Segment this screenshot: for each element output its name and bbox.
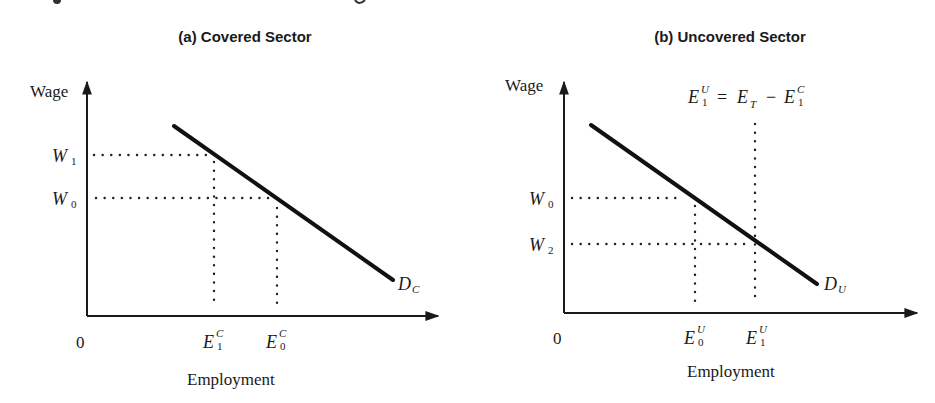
svg-text:U: U bbox=[697, 323, 706, 335]
svg-text:W: W bbox=[52, 146, 69, 166]
svg-text:E: E bbox=[683, 328, 695, 348]
svg-text:0: 0 bbox=[71, 198, 77, 210]
panel-a-title: (a) Covered Sector bbox=[178, 28, 312, 45]
y-axis-label: Wage bbox=[30, 82, 68, 101]
svg-text:0: 0 bbox=[698, 336, 704, 348]
demand-curve-du bbox=[591, 125, 817, 284]
svg-text:D: D bbox=[397, 274, 411, 294]
tick-e0u: E U 0 bbox=[683, 323, 706, 348]
demand-curve-dc bbox=[174, 126, 393, 280]
svg-text:1: 1 bbox=[798, 96, 804, 108]
svg-text:1: 1 bbox=[71, 155, 77, 167]
svg-text:E: E bbox=[265, 332, 277, 352]
svg-text:W: W bbox=[529, 189, 546, 209]
panel-b-uncovered-sector: (b) Uncovered Sector Wage 0 Employment E… bbox=[505, 28, 917, 381]
svg-text:1: 1 bbox=[217, 340, 223, 352]
curve-label-du: D U bbox=[823, 274, 847, 295]
svg-text:C: C bbox=[412, 283, 420, 295]
y-axis-label: Wage bbox=[505, 76, 543, 95]
svg-text:W: W bbox=[52, 189, 69, 209]
svg-text:1: 1 bbox=[760, 336, 766, 348]
svg-text:C: C bbox=[797, 83, 805, 95]
panel-b-title: (b) Uncovered Sector bbox=[654, 28, 806, 45]
svg-text:E: E bbox=[687, 87, 699, 107]
panel-a-covered-sector: (a) Covered Sector Wage 0 Employment W 1… bbox=[30, 28, 438, 389]
tick-e1c: E C 1 bbox=[202, 327, 224, 352]
svg-text:0: 0 bbox=[548, 198, 554, 210]
origin-label: 0 bbox=[76, 333, 85, 352]
svg-text:=: = bbox=[717, 87, 727, 107]
svg-text:U: U bbox=[838, 283, 847, 295]
x-axis-label: Employment bbox=[687, 362, 775, 381]
cut-caption bbox=[53, 0, 365, 4]
curve-label-dc: D C bbox=[397, 274, 420, 295]
svg-text:E: E bbox=[202, 332, 214, 352]
svg-text:E: E bbox=[783, 87, 795, 107]
svg-text:T: T bbox=[750, 98, 757, 110]
svg-text:E: E bbox=[745, 328, 757, 348]
origin-label: 0 bbox=[553, 329, 562, 348]
tick-e1u: E U 1 bbox=[745, 323, 768, 348]
tick-w1: W 1 bbox=[52, 146, 77, 167]
svg-text:0: 0 bbox=[280, 340, 286, 352]
svg-text:C: C bbox=[279, 327, 287, 339]
svg-text:E: E bbox=[736, 87, 748, 107]
tick-w0: W 0 bbox=[52, 189, 77, 210]
tick-e0c: E C 0 bbox=[265, 327, 287, 352]
svg-text:D: D bbox=[823, 274, 837, 294]
svg-text:U: U bbox=[701, 83, 710, 95]
svg-text:U: U bbox=[759, 323, 768, 335]
svg-text:W: W bbox=[529, 235, 546, 255]
figure-canvas: (a) Covered Sector Wage 0 Employment W 1… bbox=[0, 0, 935, 403]
svg-text:C: C bbox=[216, 327, 224, 339]
svg-text:2: 2 bbox=[548, 244, 554, 256]
svg-text:−: − bbox=[766, 87, 776, 107]
tick-w2: W 2 bbox=[529, 235, 554, 256]
annotation-e1u-equation: E U 1 = E T − E C 1 bbox=[687, 83, 805, 110]
svg-text:1: 1 bbox=[702, 96, 708, 108]
tick-w0: W 0 bbox=[529, 189, 554, 210]
x-axis-label: Employment bbox=[187, 370, 275, 389]
